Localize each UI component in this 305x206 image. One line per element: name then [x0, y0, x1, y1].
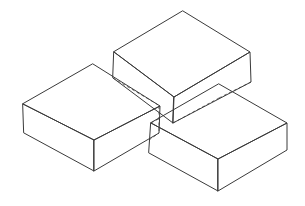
left-block [23, 64, 160, 171]
hidden-edges [113, 78, 251, 140]
right-block-right-face [218, 123, 287, 191]
top-back-block-left-face [113, 52, 174, 123]
top-back-block-top-face [114, 11, 250, 97]
blocks [23, 11, 287, 191]
left-block-top-face [23, 64, 160, 140]
left-block-left-face [23, 104, 94, 171]
top-back-block [113, 11, 251, 123]
isometric-blocks-diagram [0, 0, 305, 206]
right-block [149, 84, 287, 191]
